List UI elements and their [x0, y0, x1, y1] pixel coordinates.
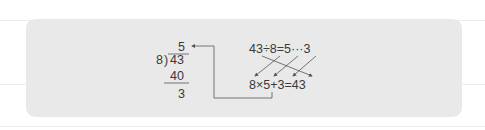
- connector-arrows: [0, 0, 485, 130]
